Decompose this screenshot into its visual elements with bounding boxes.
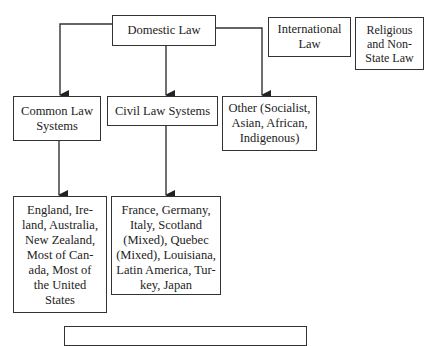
node-domestic-law: Domestic Law [112, 15, 216, 46]
arrow-domestic-to-common [60, 24, 112, 95]
node-religious-law: Religious and Non- State Law [355, 17, 424, 70]
node-label: Civil Law Systems [115, 104, 210, 119]
node-label: France, Germany, Italy, Scotland (Mixed)… [116, 203, 216, 293]
node-label: International Law [278, 22, 342, 52]
node-bottom-box [64, 326, 307, 346]
arrow-domestic-to-other [215, 28, 262, 95]
node-common-law-examples: England, Ire- land, Australia, New Zeala… [13, 196, 107, 313]
node-label: Other (Socialist, Asian, African, Indige… [229, 101, 311, 146]
node-common-law: Common Law Systems [13, 96, 101, 141]
node-label: England, Ire- land, Australia, New Zeala… [22, 203, 98, 308]
node-label: Religious and Non- State Law [365, 23, 413, 65]
node-label: Domestic Law [127, 23, 200, 38]
node-label: Common Law Systems [21, 104, 93, 134]
node-other-systems: Other (Socialist, Asian, African, Indige… [222, 96, 317, 151]
node-civil-law: Civil Law Systems [107, 96, 218, 126]
node-international-law: International Law [268, 17, 351, 57]
node-civil-law-examples: France, Germany, Italy, Scotland (Mixed)… [111, 196, 221, 295]
